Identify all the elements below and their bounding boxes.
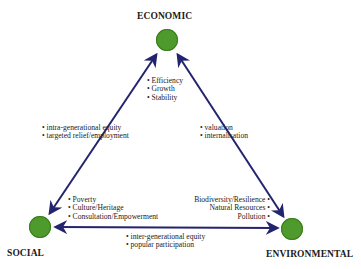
economic-label: ECONOMIC	[137, 11, 192, 21]
social-node-circle	[29, 216, 51, 238]
economic-environmental-edge-labels: valuation internalisation	[200, 124, 248, 141]
economic-attribute: Stability	[147, 94, 183, 102]
social-attributes-list: Poverty Culture/Heritage Consultation/Em…	[68, 196, 158, 221]
environmental-node-circle	[281, 218, 303, 240]
social-economic-edge-labels: intra-generational equity targeted relie…	[42, 124, 129, 141]
sustainability-triangle-diagram: ECONOMIC SOCIAL ENVIRONMENTAL Efficiency…	[0, 0, 361, 269]
edge-label: targeted relief/employment	[42, 132, 129, 140]
edge-social-environmental-arrow	[56, 227, 277, 228]
environmental-attributes-list: Biodiversity/Resilience Natural Resource…	[194, 196, 270, 221]
edge-label: internalisation	[200, 132, 248, 140]
environmental-attribute: Pollution	[194, 213, 270, 221]
social-label: SOCIAL	[7, 248, 44, 258]
economic-node-circle	[156, 29, 178, 51]
economic-attributes-list: Efficiency Growth Stability	[147, 77, 183, 102]
environmental-label: ENVIRONMENTAL	[266, 249, 353, 259]
edge-label: popular participation	[126, 241, 205, 249]
social-attribute: Consultation/Empowerment	[68, 213, 158, 221]
social-environmental-edge-labels: inter-generational equity popular partic…	[126, 233, 205, 250]
